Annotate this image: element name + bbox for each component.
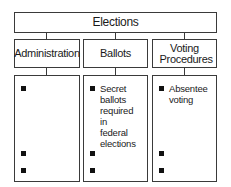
- bullet-icon: [90, 168, 95, 173]
- bullet-icon: [90, 151, 95, 156]
- bullet-icon: [90, 86, 95, 91]
- bullet-icon: [159, 168, 164, 173]
- root-label: Elections: [93, 17, 139, 28]
- administration-label: Administration: [14, 48, 80, 59]
- detail-box-voting-procedures: Absentee voting: [152, 75, 217, 182]
- connector-ballots-detail: [115, 68, 116, 75]
- list-item: Secret ballots required in federal elect…: [90, 83, 136, 149]
- node-voting-procedures: Voting Procedures: [152, 39, 217, 68]
- bullet-icon: [159, 86, 164, 91]
- bullet-icon: [21, 151, 26, 156]
- bullet-icon: [159, 151, 164, 156]
- bullet-icon: [21, 86, 26, 91]
- root-node-elections: Elections: [14, 12, 217, 33]
- ballots-label: Ballots: [100, 48, 131, 59]
- connector-voting-detail: [184, 68, 185, 75]
- connector-administration-detail: [46, 68, 47, 75]
- node-administration: Administration: [14, 39, 80, 68]
- detail-box-ballots: Secret ballots required in federal elect…: [83, 75, 148, 182]
- bullet-icon: [21, 168, 26, 173]
- detail-box-administration: [14, 75, 80, 182]
- node-ballots: Ballots: [83, 39, 148, 68]
- voting-procedures-label: Voting Procedures: [160, 43, 210, 65]
- list-item: Absentee voting: [159, 83, 211, 105]
